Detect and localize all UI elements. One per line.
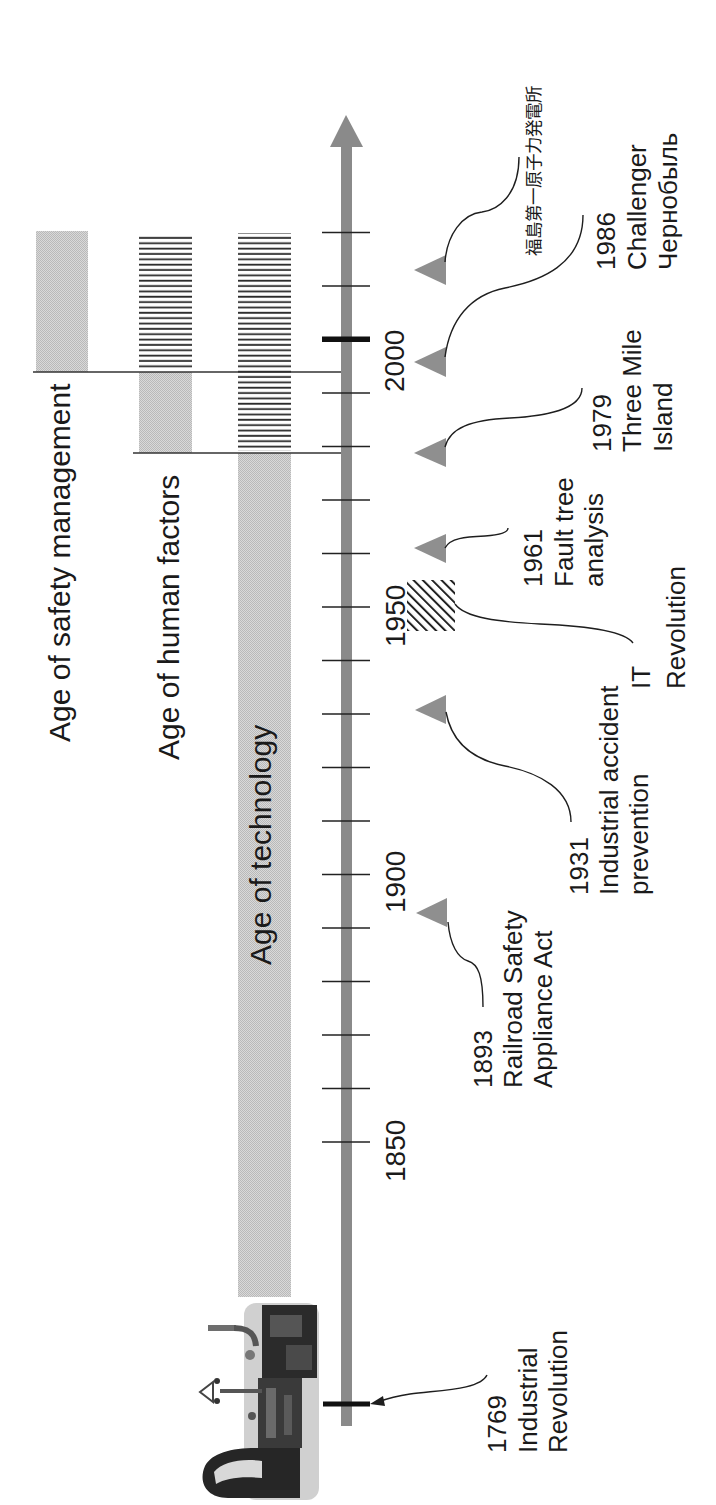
engine-top-detail: [286, 1345, 312, 1370]
event-label-line: Island: [648, 383, 678, 452]
event-connector-line: [446, 712, 571, 822]
event-triangle-marker-icon: [415, 695, 446, 724]
event-label-line: Fault tree: [549, 477, 579, 587]
event-label-line: prevention: [624, 774, 654, 895]
year-label-2000: 2000: [379, 330, 410, 392]
event-1931-industrial-accident-prevention: 1931 Industrial accident prevention: [415, 685, 654, 895]
era-safety-management: [36, 231, 88, 372]
steam-engine-illustration: [200, 1303, 319, 1500]
engine-governor-ball: [214, 1378, 220, 1384]
event-1769-industrial-revolution: 1769 Industrial Revolution: [370, 1330, 573, 1453]
event-triangle-marker-icon: [414, 534, 446, 563]
era-technology-ongoing-stripes: [238, 233, 291, 451]
event-label-line: Чернобыль: [653, 133, 683, 270]
engine-governor-ball: [214, 1398, 220, 1404]
tick-1769-bold: [323, 1402, 370, 1407]
event-hatched-period-marker: [407, 580, 455, 631]
event-fukushima: 福島第一原子力発電所: [414, 86, 544, 285]
era-safety-management-band: [36, 231, 88, 372]
engine-middle-block: [258, 1378, 302, 1448]
event-label-line: IT: [626, 666, 656, 689]
engine-top-detail: [270, 1315, 302, 1337]
year-label-1850: 1850: [380, 1120, 411, 1182]
event-label-line: Appliance Act: [528, 930, 558, 1088]
arrowhead-icon: [370, 1396, 385, 1406]
event-1979-three-mile-island: 1979 Three Mile Island: [414, 329, 678, 467]
event-1961-fault-tree-analysis: 1961 Fault tree analysis: [414, 477, 609, 587]
event-year: 1961: [518, 529, 548, 587]
event-label-line: Challenger: [622, 144, 652, 270]
event-triangle-marker-icon: [414, 438, 446, 467]
event-year: 1893: [468, 1030, 498, 1088]
tick-2000-bold: [322, 337, 370, 343]
year-label-1950: 1950: [380, 585, 411, 647]
era-human-factors-ongoing-stripes: [139, 234, 192, 370]
event-1893-railroad-safety-appliance-act: 1893 Railroad Safety Appliance Act: [416, 898, 558, 1088]
time-axis: 2000 1950 1900 1850: [322, 115, 411, 1426]
event-label-line: Revolution: [543, 1330, 573, 1453]
event-label-line: 福島第一原子力発電所: [524, 86, 544, 256]
axis-year-labels: 2000 1950 1900 1850: [379, 330, 411, 1182]
event-label-line: Industrial accident: [594, 685, 624, 895]
engine-governor-icon: [200, 1382, 213, 1402]
engine-nut: [245, 1350, 255, 1360]
era-human-factors-band: [139, 372, 192, 453]
event-label-line: Revolution: [661, 566, 691, 689]
event-connector-line: [445, 215, 583, 357]
event-connector-line: [455, 604, 633, 643]
era-label-human-factors: Age of human factors: [152, 475, 185, 760]
event-triangle-marker-icon: [414, 347, 446, 377]
engine-middle-detail: [284, 1395, 292, 1435]
event-label-line: Three Mile: [617, 329, 647, 452]
event-label-line: analysis: [579, 493, 609, 587]
event-year: 1769: [482, 1395, 512, 1453]
event-connector-arrow: [378, 1375, 487, 1402]
engine-nut: [248, 1412, 256, 1420]
year-label-1900: 1900: [380, 851, 411, 913]
axis-arrowhead-icon: [330, 115, 363, 147]
safety-history-timeline: Age of safety management Age of human fa…: [0, 0, 716, 1505]
engine-middle-detail: [266, 1388, 276, 1438]
event-connector-line: [448, 922, 483, 1007]
event-year: 1979: [587, 394, 617, 452]
event-label-line: Industrial: [513, 1348, 543, 1454]
engine-pipe: [208, 1325, 236, 1331]
event-label-line: Railroad Safety: [498, 910, 528, 1088]
event-connector-line: [445, 528, 508, 548]
era-label-technology: Age of technology: [244, 725, 277, 965]
event-triangle-marker-icon: [414, 255, 446, 285]
event-connector-line: [445, 157, 519, 262]
era-human-factors: [139, 234, 192, 453]
era-label-safety-management: Age of safety management: [43, 383, 76, 742]
event-year: 1986: [591, 212, 621, 270]
event-triangle-marker-icon: [416, 898, 447, 927]
event-connector-line: [445, 388, 582, 447]
event-year: 1931: [564, 837, 594, 895]
